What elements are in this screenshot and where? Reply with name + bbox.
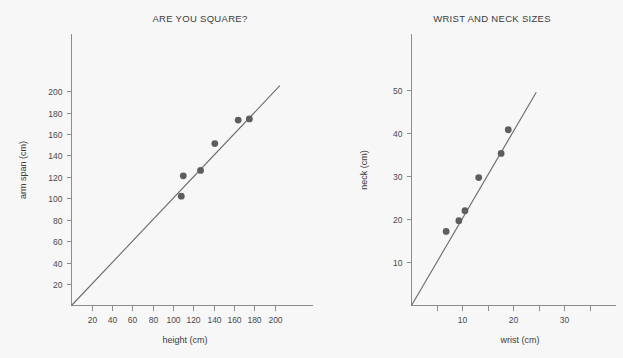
- y-tick-label: 140: [48, 151, 62, 161]
- data-point: [180, 172, 187, 179]
- x-tick-label: 20: [509, 315, 519, 325]
- y-axis-ticks: 20406080100120140160180200: [48, 87, 71, 290]
- y-axis-ticks: 1020304050: [393, 86, 411, 268]
- data-points-group: [443, 126, 512, 234]
- data-point: [462, 207, 469, 214]
- y-tick-label: 20: [393, 215, 403, 225]
- x-axis-label: height (cm): [162, 335, 207, 345]
- y-axis-label: arm span (cm): [18, 141, 28, 199]
- y-tick-label: 20: [53, 280, 63, 290]
- x-axis-label: wrist (cm): [500, 335, 540, 345]
- y-axis-label: neck (cm): [359, 150, 369, 190]
- data-point: [211, 140, 218, 147]
- y-tick-label: 40: [393, 129, 403, 139]
- figure-canvas: ARE YOU SQUARE? 204060801001201401601802…: [0, 0, 623, 358]
- y-tick-label: 160: [48, 130, 62, 140]
- chart-panel-are-you-square: ARE YOU SQUARE? 204060801001201401601802…: [0, 0, 320, 358]
- data-point: [455, 217, 462, 224]
- data-point: [197, 167, 204, 174]
- y-tick-label: 60: [53, 237, 63, 247]
- data-point: [475, 174, 482, 181]
- x-tick-label: 30: [560, 315, 570, 325]
- x-axis-ticks: 20406080100120140160180200: [88, 306, 283, 325]
- x-tick-label: 80: [149, 315, 159, 325]
- x-tick-label: 120: [186, 315, 200, 325]
- x-tick-label: 140: [207, 315, 221, 325]
- y-tick-label: 120: [48, 173, 62, 183]
- chart-panel-wrist-and-neck-sizes: WRIST AND NECK SIZES 102030 1020304050 w…: [320, 0, 623, 358]
- y-tick-label: 30: [393, 172, 403, 182]
- data-point: [498, 150, 505, 157]
- x-tick-label: 200: [268, 315, 282, 325]
- x-tick-label: 100: [166, 315, 180, 325]
- chart-title: ARE YOU SQUARE?: [152, 13, 247, 24]
- y-tick-label: 100: [48, 194, 62, 204]
- data-point: [443, 228, 450, 235]
- scatter-plot-height-vs-armspan: ARE YOU SQUARE? 204060801001201401601802…: [0, 0, 320, 358]
- y-tick-label: 180: [48, 109, 62, 119]
- scatter-plot-wrist-vs-neck: WRIST AND NECK SIZES 102030 1020304050 w…: [320, 0, 623, 358]
- data-point: [246, 116, 253, 123]
- x-tick-label: 180: [247, 315, 261, 325]
- data-point: [505, 126, 512, 133]
- y-tick-label: 50: [393, 86, 403, 96]
- data-points-group: [178, 116, 253, 200]
- y-tick-label: 80: [53, 216, 63, 226]
- x-tick-label: 10: [458, 315, 468, 325]
- x-tick-label: 40: [108, 315, 118, 325]
- x-tick-label: 20: [88, 315, 98, 325]
- y-tick-label: 200: [48, 87, 62, 97]
- y-tick-label: 10: [393, 258, 403, 268]
- x-tick-label: 160: [227, 315, 241, 325]
- x-axis-ticks: 102030: [438, 306, 591, 325]
- data-point: [235, 117, 242, 124]
- data-point: [178, 193, 185, 200]
- regression-line: [412, 92, 537, 305]
- y-tick-label: 40: [53, 259, 63, 269]
- x-tick-label: 60: [128, 315, 138, 325]
- chart-title: WRIST AND NECK SIZES: [433, 13, 551, 24]
